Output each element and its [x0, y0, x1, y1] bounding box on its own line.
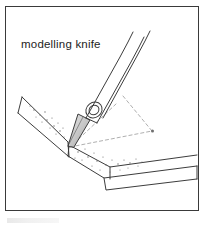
board-right-wing-edge: [104, 166, 197, 190]
figure-root: modelling knife: [0, 0, 207, 230]
board-left-wing: [18, 97, 68, 156]
caption-smudge: [7, 218, 59, 223]
construction-endpoint-dot: [151, 130, 154, 133]
knife-blade: [68, 114, 90, 147]
board-right-wing-top: [68, 145, 197, 178]
stipple-texture-right: [74, 148, 142, 172]
figure-label: modelling knife: [21, 39, 101, 51]
figure-illustration: [0, 0, 207, 230]
